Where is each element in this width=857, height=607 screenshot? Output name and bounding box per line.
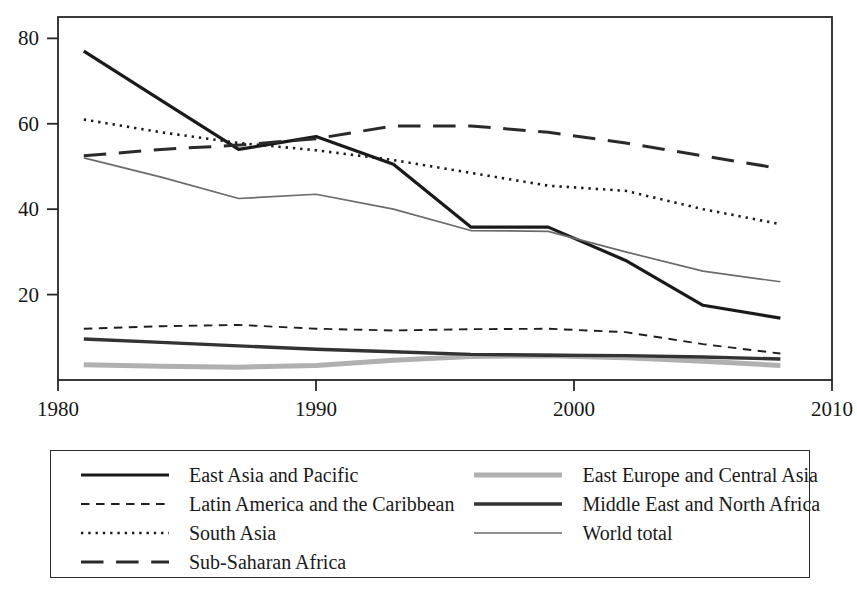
series-line-1 xyxy=(84,325,781,354)
y-axis-tick-label: 20 xyxy=(18,283,39,307)
legend-item-label: World total xyxy=(582,523,672,543)
figure-container: 204060801980199020002010 East Asia and P… xyxy=(0,0,857,607)
legend-item-empty xyxy=(454,547,820,576)
legend-swatch-icon xyxy=(79,526,171,540)
x-axis-tick-label: 2000 xyxy=(553,397,595,421)
series-line-6 xyxy=(84,158,781,282)
legend-line-sample xyxy=(79,555,171,569)
legend-line-sample xyxy=(79,526,171,540)
x-axis-tick-label: 1990 xyxy=(295,397,337,421)
legend-item-label: Latin America and the Caribbean xyxy=(189,494,454,514)
legend-item-label: Middle East and North Africa xyxy=(582,494,820,514)
legend-line-sample xyxy=(79,468,171,482)
line-chart-plot: 204060801980199020002010 xyxy=(0,0,857,432)
legend-item[interactable]: East Europe and Central Asia xyxy=(454,460,820,489)
legend-line-sample xyxy=(472,468,564,482)
legend-item[interactable]: Middle East and North Africa xyxy=(454,489,820,518)
plot-area-wrapper: 204060801980199020002010 xyxy=(0,0,857,432)
series-line-3 xyxy=(84,126,781,169)
legend-item[interactable]: Latin America and the Caribbean xyxy=(51,489,454,518)
legend-swatch-icon xyxy=(472,497,564,511)
y-axis-tick-label: 60 xyxy=(18,112,39,136)
y-axis-tick-label: 80 xyxy=(18,26,39,50)
legend-item[interactable]: Sub-Saharan Africa xyxy=(51,547,454,576)
legend-swatch-icon xyxy=(79,468,171,482)
legend-line-sample xyxy=(79,497,171,511)
x-axis-tick-label: 1980 xyxy=(37,397,79,421)
legend-item-label: South Asia xyxy=(189,523,276,543)
legend-swatch-icon xyxy=(79,555,171,569)
legend-line-sample xyxy=(472,497,564,511)
series-line-2 xyxy=(84,119,781,224)
y-axis-tick-label: 40 xyxy=(18,197,39,221)
legend-swatch-icon xyxy=(79,497,171,511)
x-axis-tick-label: 2010 xyxy=(811,397,853,421)
legend-item-label: East Europe and Central Asia xyxy=(582,465,818,485)
legend-swatch-icon xyxy=(472,526,564,540)
legend-grid: East Asia and PacificEast Europe and Cen… xyxy=(51,451,809,577)
legend-item[interactable]: World total xyxy=(454,518,820,547)
legend-swatch-icon xyxy=(472,468,564,482)
legend-line-sample xyxy=(472,526,564,540)
chart-legend: East Asia and PacificEast Europe and Cen… xyxy=(50,450,810,578)
legend-item-label: Sub-Saharan Africa xyxy=(189,552,346,572)
legend-item[interactable]: East Asia and Pacific xyxy=(51,460,454,489)
legend-item[interactable]: South Asia xyxy=(51,518,454,547)
legend-item-label: East Asia and Pacific xyxy=(189,465,358,485)
